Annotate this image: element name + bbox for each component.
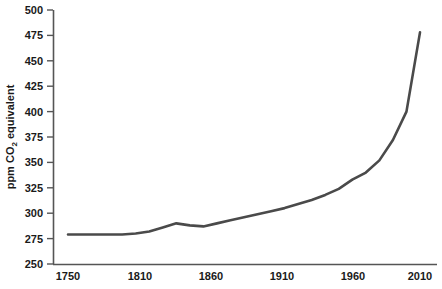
co2-equivalent-line-chart: 500 475 450 425 400 375 350 325 300 275 … [0, 0, 442, 289]
y-tick-label-425: 425 [25, 80, 43, 92]
y-axis-title-post: equivalent [4, 84, 16, 142]
x-tick-label-1910: 1910 [270, 270, 294, 282]
y-tick-label-450: 450 [25, 55, 43, 67]
co2-series-line [68, 32, 420, 234]
x-tick-label-1860: 1860 [199, 270, 223, 282]
y-axis-title: ppm CO2 equivalent [4, 84, 19, 189]
y-tick-label-350: 350 [25, 156, 43, 168]
y-tick-label-475: 475 [25, 29, 43, 41]
x-tick-label-1960: 1960 [341, 270, 365, 282]
x-tick-label-1810: 1810 [128, 270, 152, 282]
y-axis-title-pre: ppm CO [4, 146, 16, 189]
x-axis-tick-labels: 1750 1810 1860 1910 1960 2010 [56, 270, 432, 282]
x-tick-label-1750: 1750 [56, 270, 80, 282]
y-tick-label-300: 300 [25, 207, 43, 219]
y-tick-label-250: 250 [25, 258, 43, 270]
x-tick-label-2010: 2010 [408, 270, 432, 282]
y-axis-tick-labels: 500 475 450 425 400 375 350 325 300 275 … [25, 4, 43, 270]
y-tick-label-400: 400 [25, 106, 43, 118]
y-tick-label-375: 375 [25, 131, 43, 143]
y-tick-label-275: 275 [25, 233, 43, 245]
chart-canvas: 500 475 450 425 400 375 350 325 300 275 … [0, 0, 442, 289]
y-tick-label-325: 325 [25, 182, 43, 194]
y-tick-label-500: 500 [25, 4, 43, 16]
y-axis-ticks [47, 10, 53, 264]
